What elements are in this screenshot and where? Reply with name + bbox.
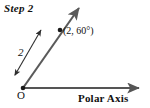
point-coordinate-label: (2, 60°) — [63, 26, 94, 36]
plotted-point-dot — [58, 28, 63, 33]
step-title-label: Step 2 — [4, 3, 34, 14]
radius-length-label: 2 — [18, 47, 24, 58]
terminal-ray-line — [23, 8, 79, 88]
origin-label: O — [17, 90, 25, 101]
polar-axis-label: Polar Axis — [78, 93, 128, 104]
polar-coordinate-diagram: Step 2 (2, 60°) 2 O Polar Axis — [0, 0, 150, 108]
